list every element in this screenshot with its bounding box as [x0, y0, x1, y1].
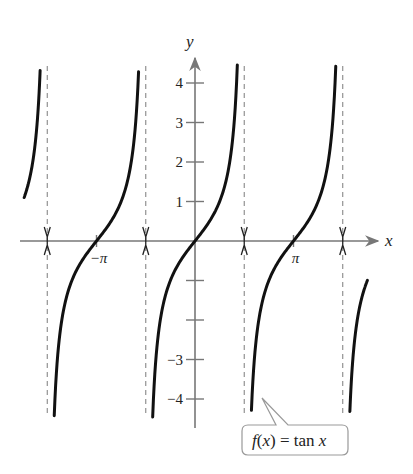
- y-tick-label: −4: [167, 391, 183, 407]
- x-tick-label: −π: [90, 250, 108, 266]
- tan-curve-branch: [24, 70, 40, 197]
- tan-curve-branch: [350, 280, 368, 411]
- y-tick-label: 1: [176, 194, 184, 210]
- y-tick-label: 3: [176, 115, 184, 131]
- y-tick-label: 2: [176, 154, 184, 170]
- function-label: f(x) = tan x: [252, 431, 327, 450]
- y-tick-label: −3: [167, 352, 183, 368]
- x-axis-label: x: [384, 231, 393, 250]
- y-axis-label: y: [184, 32, 194, 51]
- tan-graph: 1234−3−4−ππ x y f(x) = tan x: [0, 0, 413, 474]
- function-callout: f(x) = tan x: [242, 398, 348, 455]
- axes: [20, 58, 378, 428]
- y-tick-label: 4: [176, 75, 184, 91]
- x-tick-label: π: [292, 250, 300, 266]
